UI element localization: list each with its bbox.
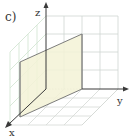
y-axis-arrow-icon xyxy=(123,87,129,92)
panel-label: c) xyxy=(5,10,16,24)
z-axis-label: z xyxy=(35,7,40,18)
y-axis-label: y xyxy=(116,95,123,106)
z-axis-arrow-icon xyxy=(44,2,49,8)
x-axis-label: x xyxy=(9,127,15,136)
3d-coordinate-diagram: c) z y x xyxy=(0,0,129,136)
